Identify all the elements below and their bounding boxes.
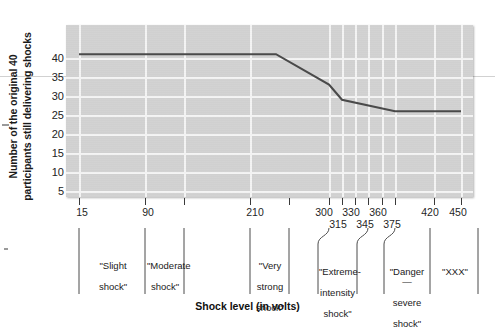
- y-axis-title: Number of the original 40 participants s…: [7, 11, 34, 223]
- group-label-slight-shock-line1: "Slight: [82, 261, 144, 272]
- group-label-extreme-intensity-shock-line1: "Extreme-: [319, 267, 356, 278]
- x-label-450: 450: [449, 207, 467, 218]
- x-tick-mark-315: [342, 198, 343, 205]
- y-tick-30: 30: [40, 91, 64, 102]
- group-label-xxx: "XXX": [433, 256, 477, 288]
- x-tick-mark-15: [79, 198, 80, 205]
- data-line-participants: [79, 54, 461, 111]
- y-tick-10: 10: [40, 167, 64, 178]
- y-tick-40: 40: [40, 53, 64, 64]
- y-tick-20: 20: [40, 129, 64, 140]
- y-tick-5: 5: [40, 186, 64, 197]
- group-label-danger-severe-shock: "Danger— severe shock": [385, 256, 429, 331]
- x-tick-mark-255: [289, 198, 290, 205]
- x-tick-mark-90: [145, 198, 146, 205]
- x-tick-mark-345: [368, 198, 369, 205]
- x-label-300: 300: [315, 207, 333, 218]
- group-label-very-strong-shock-line1: "Very: [252, 261, 288, 272]
- x-tick-mark-450: [461, 198, 462, 205]
- group-label-moderate-shock: "Moderate shock": [147, 250, 183, 303]
- group-label-xxx-line1: "XXX": [433, 267, 477, 278]
- x-tick-mark-360: [382, 198, 383, 205]
- x-tick-mark-330: [355, 198, 356, 205]
- group-label-moderate-shock-line2: shock": [147, 282, 183, 293]
- group-label-extreme-intensity-shock: "Extreme- intensity shock": [319, 256, 356, 330]
- group-label-very-strong-shock: "Very strong shock": [252, 250, 288, 324]
- group-label-moderate-shock-line1: "Moderate: [147, 261, 183, 272]
- group-label-danger-severe-shock-line1: "Danger—: [385, 267, 429, 288]
- shock-level-group-brackets: "Slight shock" "Moderate shock" "Very st…: [0, 228, 495, 296]
- y-tick-15: 15: [40, 148, 64, 159]
- x-tick-mark-375: [395, 198, 396, 205]
- x-label-15: 15: [76, 207, 88, 218]
- x-label-210: 210: [246, 207, 264, 218]
- y-tick-35: 35: [40, 72, 64, 83]
- x-tick-mark-300: [329, 198, 330, 205]
- x-axis-title: Shock level (in volts): [0, 300, 495, 312]
- x-tick-mark-210: [250, 198, 251, 205]
- chart-plot-area: [66, 25, 473, 197]
- group-label-slight-shock-line2: shock": [82, 282, 144, 293]
- data-series-svg: [66, 25, 473, 197]
- group-label-very-strong-shock-line2: strong: [252, 282, 288, 293]
- x-label-90: 90: [142, 207, 154, 218]
- x-label-330: 330: [342, 207, 360, 218]
- x-axis-tick-marks: [66, 198, 473, 205]
- group-label-extreme-intensity-shock-line2: intensity: [319, 288, 356, 299]
- x-tick-mark-420: [434, 198, 435, 205]
- group-label-danger-severe-shock-line3: shock": [385, 319, 429, 330]
- y-tick-25: 25: [40, 110, 64, 121]
- x-label-360: 360: [369, 207, 387, 218]
- x-label-420: 420: [421, 207, 439, 218]
- y-axis-title-line1: Number of the original 40: [7, 11, 21, 223]
- x-tick-mark-135: [184, 198, 185, 205]
- y-axis-title-line2: participants still delivering shocks: [20, 11, 34, 223]
- group-label-slight-shock: "Slight shock": [82, 250, 144, 303]
